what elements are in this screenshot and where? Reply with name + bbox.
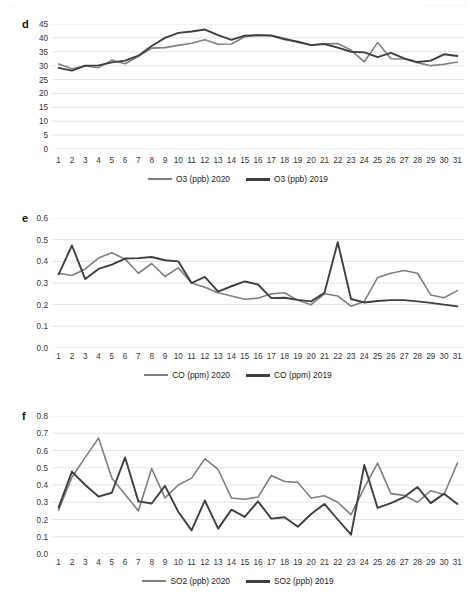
x-axis-tick-label: 19	[293, 156, 302, 165]
x-axis-tick-label: 6	[123, 558, 128, 567]
legend-item[interactable]: O3 (ppb) 2019	[246, 174, 328, 184]
x-axis-tick-label: 27	[400, 352, 409, 361]
x-axis-tick-label: 18	[280, 558, 289, 567]
y-axis-tick-label: 20	[39, 89, 48, 98]
x-axis-tick-label: 20	[307, 156, 316, 165]
x-axis-tick-label: 30	[440, 558, 449, 567]
x-axis-tick-label: 8	[149, 558, 154, 567]
legend-item[interactable]: SO2 (ppb) 2019	[246, 576, 334, 586]
x-axis-tick-label: 6	[123, 352, 128, 361]
y-axis-tick-label: 0.0	[37, 344, 48, 353]
x-axis-tick-label: 19	[293, 352, 302, 361]
y-axis-tick-label: 30	[39, 61, 48, 70]
x-axis-tick-label: 11	[187, 156, 196, 165]
plot-area-e	[52, 218, 464, 348]
y-axis-tick-label: 0.2	[37, 515, 48, 524]
x-axis-tick-label: 2	[70, 352, 75, 361]
legend-item[interactable]: O3 (ppb) 2020	[148, 174, 230, 184]
y-axis-tick-label: 45	[39, 20, 48, 29]
x-axis-tick-label: 12	[200, 156, 209, 165]
x-axis-tick-label: 21	[320, 558, 329, 567]
x-axis-tick-label: 19	[293, 558, 302, 567]
legend-label: SO2 (ppb) 2020	[170, 576, 230, 586]
y-axis-tick-label: 0.6	[37, 214, 48, 223]
x-axis-tick-label: 3	[83, 352, 88, 361]
x-axis-tick-label: 6	[123, 156, 128, 165]
x-axis-tick-label: 11	[187, 352, 196, 361]
chart-svg	[52, 24, 464, 149]
x-axis-tick-label: 24	[360, 558, 369, 567]
x-axis-tick-label: 15	[240, 352, 249, 361]
series-line	[59, 242, 458, 306]
x-axis-tick-label: 7	[136, 156, 141, 165]
x-axis-tick-label: 4	[96, 156, 101, 165]
y-axis-tick-label: 0.4	[37, 257, 48, 266]
x-axis-tick-label: 11	[187, 558, 196, 567]
x-axis-tick-label: 20	[307, 352, 316, 361]
x-axis-tick-label: 5	[110, 352, 115, 361]
y-axis-tick-label: 0.0	[37, 550, 48, 559]
legend-e: CO (ppm) 2020CO (ppm) 2019	[0, 370, 476, 380]
x-axis-tick-label: 30	[440, 352, 449, 361]
x-axis-tick-label: 1	[56, 156, 61, 165]
legend-item[interactable]: CO (ppm) 2020	[144, 370, 230, 380]
legend-item[interactable]: CO (ppm) 2019	[246, 370, 332, 380]
y-axis-tick-label: 0.8	[37, 412, 48, 421]
x-axis-tick-label: 13	[214, 558, 223, 567]
legend-label: CO (ppm) 2019	[274, 370, 332, 380]
y-axis-tick-label: 0.5	[37, 235, 48, 244]
y-axis-tick-label: 25	[39, 75, 48, 84]
y-axis-labels-f: 0.00.10.20.30.40.50.60.70.8	[0, 416, 48, 554]
x-axis-tick-label: 16	[253, 352, 262, 361]
chart-panel-d: d 051015202530354045 1234567891011121314…	[0, 14, 476, 200]
legend-line-swatch-icon	[246, 178, 270, 181]
y-axis-tick-label: 0	[43, 145, 48, 154]
x-axis-tick-label: 13	[214, 156, 223, 165]
legend-label: SO2 (ppb) 2019	[274, 576, 334, 586]
x-axis-tick-label: 3	[83, 558, 88, 567]
y-axis-tick-label: 0.3	[37, 279, 48, 288]
x-axis-tick-label: 12	[200, 558, 209, 567]
x-axis-tick-label: 14	[227, 352, 236, 361]
legend-f: SO2 (ppb) 2020SO2 (ppb) 2019	[0, 576, 476, 586]
x-axis-tick-label: 5	[110, 156, 115, 165]
series-line	[59, 30, 458, 71]
y-axis-tick-label: 0.1	[37, 532, 48, 541]
legend-item[interactable]: SO2 (ppb) 2020	[142, 576, 230, 586]
x-axis-tick-label: 31	[453, 156, 462, 165]
legend-d: O3 (ppb) 2020O3 (ppb) 2019	[0, 174, 476, 184]
x-axis-tick-label: 4	[96, 558, 101, 567]
x-axis-tick-label: 25	[373, 352, 382, 361]
y-axis-tick-label: 0.4	[37, 481, 48, 490]
y-axis-tick-label: 0.2	[37, 300, 48, 309]
x-axis-tick-label: 7	[136, 558, 141, 567]
x-axis-labels-d: 1234567891011121314151617181920212223242…	[52, 156, 464, 168]
x-axis-tick-label: 28	[413, 156, 422, 165]
x-axis-tick-label: 31	[453, 352, 462, 361]
y-axis-labels-e: 0.00.10.20.30.40.50.6	[0, 218, 48, 348]
x-axis-tick-label: 30	[440, 156, 449, 165]
chart-panel-e: e 0.00.10.20.30.40.50.6 1234567891011121…	[0, 200, 476, 396]
legend-label: CO (ppm) 2020	[172, 370, 230, 380]
x-axis-tick-label: 24	[360, 352, 369, 361]
x-axis-tick-label: 23	[346, 558, 355, 567]
y-axis-tick-label: 0.7	[37, 429, 48, 438]
x-axis-tick-label: 24	[360, 156, 369, 165]
legend-line-swatch-icon	[246, 580, 270, 583]
x-axis-tick-label: 14	[227, 558, 236, 567]
header-right-text: xxxx xxxxxx xxx	[425, 2, 468, 8]
y-axis-tick-label: 10	[39, 117, 48, 126]
legend-line-swatch-icon	[142, 580, 166, 582]
x-axis-tick-label: 12	[200, 352, 209, 361]
x-axis-tick-label: 5	[110, 558, 115, 567]
y-axis-labels-d: 051015202530354045	[0, 24, 48, 149]
x-axis-tick-label: 28	[413, 352, 422, 361]
x-axis-tick-label: 4	[96, 352, 101, 361]
chart-svg	[52, 218, 464, 348]
x-axis-labels-e: 1234567891011121314151617181920212223242…	[52, 352, 464, 364]
x-axis-tick-label: 29	[426, 156, 435, 165]
legend-line-swatch-icon	[148, 178, 172, 180]
x-axis-tick-label: 14	[227, 156, 236, 165]
x-axis-tick-label: 25	[373, 156, 382, 165]
x-axis-tick-label: 20	[307, 558, 316, 567]
